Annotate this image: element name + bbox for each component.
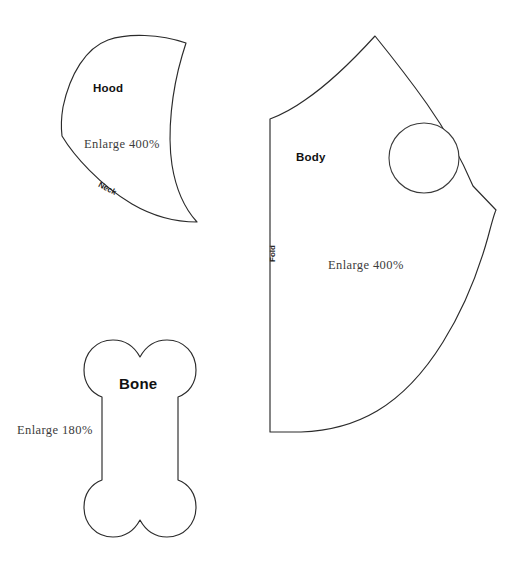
piece-label-body: Body	[296, 151, 326, 163]
body-leg-hole[interactable]	[389, 123, 459, 193]
pattern-sheet: Hood Body Bone Enlarge 400% Enlarge 400%…	[0, 0, 527, 562]
piece-label-hood: Hood	[93, 82, 123, 94]
enlarge-note-hood: Enlarge 400%	[84, 137, 160, 152]
body-piece-outline[interactable]	[270, 36, 496, 432]
piece-label-bone: Bone	[119, 375, 157, 392]
bone-piece-outline[interactable]	[84, 340, 196, 537]
edge-label-fold: Fold	[268, 245, 277, 262]
enlarge-note-body: Enlarge 400%	[328, 258, 404, 273]
hood-piece-outline[interactable]	[61, 35, 197, 222]
enlarge-note-bone: Enlarge 180%	[17, 423, 93, 438]
pattern-outlines	[0, 0, 527, 562]
